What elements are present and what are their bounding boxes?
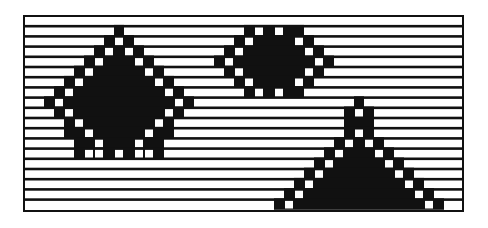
white-cell [305, 48, 313, 56]
white-cell [175, 99, 183, 107]
white-cell [415, 191, 423, 199]
black-cell-run [84, 56, 154, 68]
black-cell-run [344, 117, 374, 129]
black-cell-run [244, 86, 304, 98]
white-cell [245, 38, 253, 46]
black-cell-run [284, 188, 434, 200]
white-cell [85, 68, 93, 76]
black-cell-run [334, 137, 384, 149]
black-cell-run [274, 198, 444, 210]
white-cell [405, 181, 413, 189]
white-cell [145, 150, 153, 158]
white-cell [95, 140, 103, 148]
white-cell [125, 48, 133, 56]
white-cell [115, 150, 123, 158]
white-cell [425, 201, 433, 209]
white-cell [95, 150, 103, 158]
black-cell-run [64, 127, 174, 138]
white-cell [315, 170, 323, 178]
white-cell [385, 160, 393, 168]
white-cell [135, 150, 143, 158]
white-cell [305, 181, 313, 189]
black-cell-run [294, 178, 424, 190]
white-cell [85, 150, 93, 158]
white-cell [235, 48, 243, 56]
white-cell [95, 58, 103, 66]
black-cell-run [244, 25, 304, 37]
white-cell [375, 150, 383, 158]
white-cell [295, 191, 303, 199]
white-cell [325, 160, 333, 168]
white-cell [275, 28, 283, 36]
black-cell-run [54, 107, 184, 119]
white-cell [295, 38, 303, 46]
white-cell [115, 38, 123, 46]
white-cell [295, 79, 303, 87]
white-cell [395, 170, 403, 178]
white-cell [145, 130, 153, 138]
white-cell [275, 89, 283, 97]
black-cell-run [44, 96, 194, 108]
black-cell-run [74, 137, 164, 149]
white-cell [365, 140, 373, 148]
white-cell [135, 140, 143, 148]
black-cell-run [114, 25, 124, 37]
grating-bar [24, 25, 463, 28]
white-cell [305, 68, 313, 76]
white-cell [355, 109, 363, 117]
white-cell [225, 58, 233, 66]
white-cell [65, 89, 73, 97]
black-cell-run [54, 86, 184, 98]
black-cell-run [94, 45, 144, 57]
white-cell [105, 48, 113, 56]
white-cell [335, 150, 343, 158]
white-cell [75, 79, 83, 87]
white-cell [245, 79, 253, 87]
white-cell [235, 68, 243, 76]
white-cell [135, 58, 143, 66]
white-cell [55, 99, 63, 107]
white-cell [355, 130, 363, 138]
white-cell [155, 79, 163, 87]
black-cell-run [354, 96, 364, 108]
black-cell-run [324, 147, 394, 159]
white-cell [285, 201, 293, 209]
white-cell [345, 140, 353, 148]
white-cell [75, 119, 83, 127]
white-cell [255, 89, 263, 97]
white-cell [315, 58, 323, 66]
white-cell [165, 109, 173, 117]
white-cell [65, 109, 73, 117]
white-cell [255, 28, 263, 36]
white-cell [85, 130, 93, 138]
white-cell [165, 89, 173, 97]
white-cell [145, 68, 153, 76]
white-cell [155, 119, 163, 127]
illusion-figure [0, 0, 488, 228]
